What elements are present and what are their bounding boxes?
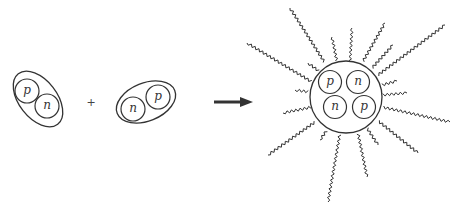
wavy-ray (308, 63, 319, 71)
wavy-ray (349, 28, 353, 61)
wavy-ray (379, 25, 445, 76)
wavy-ray (357, 134, 368, 177)
proton-label: p (23, 84, 31, 96)
wavy-ray (382, 80, 397, 85)
neutron-label: n (354, 75, 362, 87)
wavy-ray (295, 89, 308, 92)
wavy-ray (367, 128, 378, 145)
neutron-label: n (43, 99, 51, 111)
wavy-ray (283, 106, 311, 113)
proton-label: p (154, 90, 162, 102)
proton-label: p (360, 100, 368, 112)
nucleus-shell (310, 61, 382, 133)
deuteron-right (110, 73, 182, 131)
wavy-ray (383, 92, 407, 96)
neutron-label: n (129, 102, 137, 114)
deuteron-right-shell (110, 73, 182, 131)
reaction-arrow (214, 97, 253, 107)
fusion-diagram: p n + n p p n n p (0, 0, 463, 213)
wavy-ray (379, 120, 418, 153)
wavy-ray (328, 135, 342, 202)
wavy-ray (290, 8, 324, 63)
wavy-ray (384, 106, 450, 122)
wavy-ray (268, 121, 314, 155)
proton-label: p (326, 75, 334, 87)
plus-sign: + (86, 97, 95, 108)
wavy-ray (331, 37, 337, 61)
helium-nucleus (310, 61, 382, 133)
neutron-label: n (331, 100, 339, 112)
wavy-ray (320, 132, 327, 140)
wavy-ray (247, 43, 312, 82)
deuteron-left (3, 62, 72, 136)
